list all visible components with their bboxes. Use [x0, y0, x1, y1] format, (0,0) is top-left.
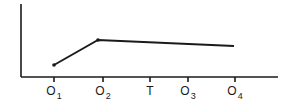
data-point-marker: [96, 38, 100, 42]
x-tick-label: O1: [46, 85, 61, 101]
data-point-marker: [52, 63, 56, 67]
x-tick-label: O2: [95, 85, 110, 101]
series-line: [54, 40, 234, 65]
x-tick-label: T: [146, 85, 153, 97]
x-tick-label: O4: [227, 85, 242, 101]
x-tick-label: O3: [180, 85, 195, 101]
